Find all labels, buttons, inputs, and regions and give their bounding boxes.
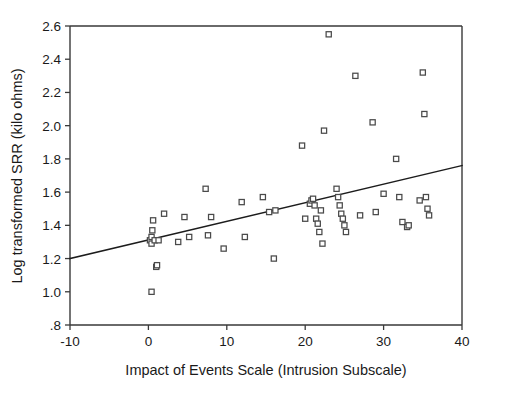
axis-tick-marks bbox=[65, 26, 462, 330]
data-point bbox=[187, 234, 192, 239]
data-point bbox=[260, 194, 265, 199]
data-point bbox=[353, 73, 358, 78]
data-point bbox=[381, 191, 386, 196]
y-tick-label: 1.4 bbox=[42, 218, 61, 233]
data-point bbox=[373, 209, 378, 214]
data-point-markers bbox=[147, 32, 431, 295]
scatter-plot-figure: .81.01.21.41.61.82.02.22.42.6 -100102030… bbox=[0, 0, 506, 405]
y-tick-label: 2.6 bbox=[42, 19, 61, 34]
data-point bbox=[336, 194, 341, 199]
data-point bbox=[317, 229, 322, 234]
data-point bbox=[209, 214, 214, 219]
data-point bbox=[343, 229, 348, 234]
data-point bbox=[299, 143, 304, 148]
data-point bbox=[406, 223, 411, 228]
y-tick-label: 2.2 bbox=[42, 85, 61, 100]
data-point bbox=[425, 206, 430, 211]
data-point bbox=[150, 228, 155, 233]
data-point bbox=[321, 128, 326, 133]
data-point bbox=[342, 223, 347, 228]
data-point bbox=[310, 196, 315, 201]
data-point bbox=[203, 186, 208, 191]
data-point bbox=[337, 203, 342, 208]
y-axis-tick-labels: .81.01.21.41.61.82.02.22.42.6 bbox=[42, 19, 61, 333]
data-point bbox=[151, 218, 156, 223]
plot-frame bbox=[70, 26, 462, 325]
x-tick-label: 20 bbox=[298, 334, 313, 349]
x-axis-title: Impact of Events Scale (Intrusion Subsca… bbox=[125, 362, 406, 378]
data-point bbox=[239, 199, 244, 204]
y-tick-label: 1.6 bbox=[42, 185, 61, 200]
data-point bbox=[267, 209, 272, 214]
data-point bbox=[340, 216, 345, 221]
data-point bbox=[357, 213, 362, 218]
data-point bbox=[397, 194, 402, 199]
data-point bbox=[420, 70, 425, 75]
data-point bbox=[161, 211, 166, 216]
data-point bbox=[426, 213, 431, 218]
x-tick-label: 10 bbox=[219, 334, 234, 349]
data-point bbox=[182, 214, 187, 219]
data-point bbox=[394, 156, 399, 161]
data-point bbox=[422, 111, 427, 116]
x-axis-tick-labels: -10010203040 bbox=[60, 334, 469, 349]
x-tick-label: 40 bbox=[454, 334, 469, 349]
data-point bbox=[315, 221, 320, 226]
data-point bbox=[271, 256, 276, 261]
y-axis-title: Log transformed SRR (kilo ohms) bbox=[9, 68, 25, 283]
data-point bbox=[334, 186, 339, 191]
data-point bbox=[176, 239, 181, 244]
data-point bbox=[318, 208, 323, 213]
x-tick-label: 30 bbox=[376, 334, 391, 349]
y-tick-label: 1.8 bbox=[42, 152, 61, 167]
data-point bbox=[149, 289, 154, 294]
data-point bbox=[205, 233, 210, 238]
y-tick-label: 2.4 bbox=[42, 52, 61, 67]
data-point bbox=[221, 246, 226, 251]
data-point bbox=[370, 120, 375, 125]
y-tick-label: 2.0 bbox=[42, 119, 61, 134]
data-point bbox=[320, 241, 325, 246]
y-tick-label: 1.0 bbox=[42, 285, 61, 300]
y-tick-label: .8 bbox=[50, 318, 61, 333]
data-point bbox=[312, 203, 317, 208]
data-point bbox=[242, 234, 247, 239]
plot-canvas: .81.01.21.41.61.82.02.22.42.6 -100102030… bbox=[0, 0, 506, 405]
data-point bbox=[326, 32, 331, 37]
x-tick-label: -10 bbox=[60, 334, 80, 349]
data-point bbox=[303, 216, 308, 221]
data-point bbox=[417, 198, 422, 203]
data-point bbox=[423, 194, 428, 199]
x-tick-label: 0 bbox=[145, 334, 153, 349]
data-point bbox=[273, 208, 278, 213]
data-point bbox=[154, 263, 159, 268]
data-point bbox=[156, 238, 161, 243]
y-tick-label: 1.2 bbox=[42, 252, 61, 267]
